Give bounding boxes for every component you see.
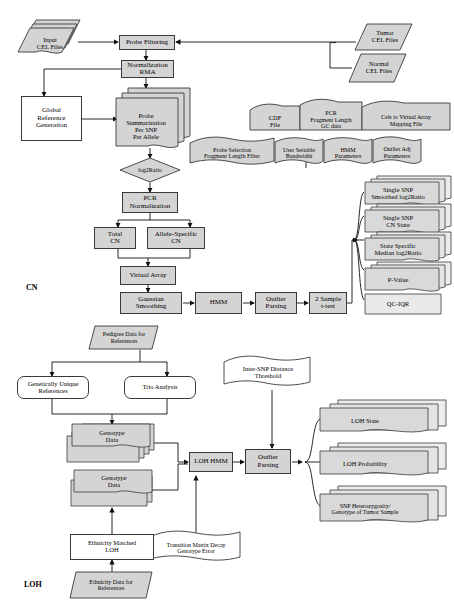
node-label: Tumor CEL Files — [354, 22, 416, 52]
node-normal-cel-files[interactable]: Normal CEL Files — [348, 52, 410, 84]
section-label-cn: CN — [26, 283, 38, 292]
node-genotype-data-2[interactable]: Genotype Data — [62, 470, 158, 510]
node-label: Global Reference Generation — [34, 107, 69, 129]
node-label: Outlier Parsing — [256, 454, 281, 469]
node-hmm-parameters[interactable]: HMM Parameters — [322, 137, 374, 167]
node-label: Ethnicity Matched LOH — [86, 540, 138, 554]
node-inter-snp-distance-threshold[interactable]: Inter-SNP Distance Threshold — [222, 356, 314, 390]
node-label: Trio Analysis — [141, 384, 180, 391]
node-probe-filtering[interactable]: Probe Filtering — [119, 35, 175, 50]
node-label: HMM — [208, 299, 230, 306]
node-label: Cels to Virtual Array Mapping File — [360, 104, 452, 137]
node-label: User Settable Bandwidth — [273, 138, 325, 168]
node-label: Total CN — [106, 231, 124, 246]
node-global-reference-generation[interactable]: Global Reference Generation — [21, 96, 82, 141]
node-total-cn[interactable]: Total CN — [94, 227, 136, 249]
node-ethnicity-data-for-references[interactable]: Ethnicity Data for References — [68, 570, 154, 600]
node-label: LOH HMM — [192, 458, 230, 465]
node-virtual-array[interactable]: Virtual Array — [120, 266, 176, 285]
node-label: Normal CEL Files — [348, 52, 410, 84]
node-cels-to-virtual-array[interactable]: Cels to Virtual Array Mapping File — [360, 100, 452, 133]
node-label: Outlier Adj Parameters — [371, 137, 423, 168]
node-genotype-data-1[interactable]: Genotype Data — [60, 424, 156, 466]
node-loh-probability[interactable]: LOH Probability — [318, 443, 448, 481]
flowchart-diagram: Input CEL Files Tumor CEL Files Normal C… — [0, 0, 454, 616]
node-genetically-unique-references[interactable]: Genetically Unique References — [17, 376, 89, 399]
node-p-value[interactable]: P-Value — [363, 262, 453, 294]
node-label: PCR Normalization — [128, 195, 172, 210]
node-label: Gaussian Smoothing — [134, 296, 169, 311]
node-log2ratio[interactable]: log2Ratio — [120, 158, 180, 182]
node-probe-summarization[interactable]: Probe Summarization Per SNP Per Allele — [112, 88, 192, 150]
node-allele-specific-cn[interactable]: Allele-Specific CN — [147, 227, 205, 249]
node-snp-heterozygosity[interactable]: SNP Heterozygosity/ Genotype of Tumor Sa… — [318, 486, 448, 528]
node-state-specific-median-log2ratio[interactable]: State Specific Median log2Ratio — [363, 232, 453, 264]
node-label: log2Ratio — [120, 158, 180, 182]
node-label: SNP Heterozygosity/ Genotype of Tumor Sa… — [300, 488, 430, 530]
node-user-settable-bandwidth[interactable]: User Settable Bandwidth — [273, 137, 325, 167]
node-label: Genotype Data — [64, 416, 160, 458]
node-label: Probe Summarization Per SNP Per Allele — [106, 96, 186, 158]
node-label: Outlier Parsing — [264, 296, 289, 311]
node-normalization-rma[interactable]: Normalization RMA — [121, 60, 174, 78]
node-hmm[interactable]: HMM — [195, 292, 242, 314]
node-label: CDF File — [248, 107, 302, 137]
node-input-cel-files[interactable]: Input CEL Files — [22, 18, 82, 58]
node-label: Ethnicity Data for References — [68, 570, 154, 600]
node-outlier-adj-parameters[interactable]: Outlier Adj Parameters — [371, 136, 423, 167]
node-label: HMM Parameters — [322, 138, 374, 168]
node-outlier-parsing-cn[interactable]: Outlier Parsing — [255, 292, 297, 314]
node-transition-matrix-decay[interactable]: Transition Matrix Decay Genotype Error — [148, 530, 244, 566]
node-label: Transition Matrix Decay Genotype Error — [148, 530, 244, 566]
node-loh-state[interactable]: LOH State — [318, 400, 448, 438]
node-label: LOH Probability — [300, 445, 430, 483]
node-label: Genetically Unique References — [26, 381, 81, 395]
node-label: QC-IQR — [353, 292, 443, 316]
node-label: Probe Filtering — [124, 39, 170, 46]
node-label: Input CEL Files — [20, 24, 80, 64]
node-trio-analysis[interactable]: Trio Analysis — [124, 376, 196, 399]
node-probe-selection-filter[interactable]: Probe Selection Fragment Length Filter — [188, 137, 276, 167]
section-label-loh: LOH — [24, 580, 42, 589]
node-pcr-normalization[interactable]: PCR Normalization — [122, 192, 178, 213]
node-two-sample-ttest[interactable]: 2 Sample t-test — [309, 292, 347, 314]
node-pedigree-data-for-references[interactable]: Pedigree Data for References — [88, 324, 160, 351]
node-tumor-cel-files[interactable]: Tumor CEL Files — [354, 22, 416, 52]
node-label: Genotype Data — [66, 462, 162, 502]
node-ethnicity-matched-loh[interactable]: Ethnicity Matched LOH — [70, 534, 154, 560]
node-label: PCR Fragment Length GC data — [298, 103, 364, 137]
node-qc-iqr[interactable]: QC-IQR — [363, 292, 453, 316]
node-label: Inter-SNP Distance Threshold — [222, 356, 314, 390]
node-label: 2 Sample t-test — [313, 296, 343, 311]
node-label: Probe Selection Fragment Length Filter — [188, 138, 276, 168]
node-gaussian-smoothing[interactable]: Gaussian Smoothing — [120, 292, 182, 314]
node-label: Virtual Array — [127, 272, 168, 279]
node-loh-hmm[interactable]: LOH HMM — [189, 452, 233, 472]
node-label: Normalization RMA — [125, 62, 169, 77]
node-cdf-file[interactable]: CDF File — [248, 102, 302, 132]
node-label: Pedigree Data for References — [88, 324, 160, 351]
node-label: Allele-Specific CN — [153, 231, 199, 246]
node-label: LOH State — [300, 402, 430, 440]
node-pcr-fragment-length-gc[interactable]: PCR Fragment Length GC data — [298, 99, 364, 133]
node-outlier-parsing-loh[interactable]: Outlier Parsing — [245, 449, 291, 474]
